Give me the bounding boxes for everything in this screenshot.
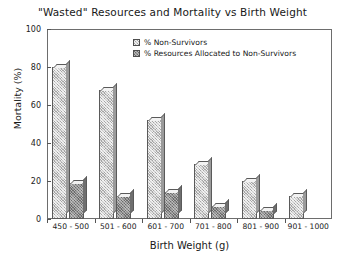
- y-axis-tick-mark: [47, 181, 51, 182]
- bar-0-2: [147, 120, 162, 219]
- bar-1-3: [211, 206, 226, 219]
- x-axis-tick-label: 601 - 700: [147, 222, 184, 231]
- x-axis-tick-label: 450 - 500: [52, 222, 89, 231]
- y-axis-tick-label: 20: [15, 177, 41, 186]
- legend-item: % Non-Survivors: [133, 37, 296, 48]
- light-hatched-swatch: [133, 39, 140, 46]
- bar-1-0: [69, 183, 84, 219]
- bar-0-3: [194, 164, 209, 219]
- dark-hatched-swatch: [133, 50, 140, 57]
- y-axis-tick-mark: [47, 143, 51, 144]
- x-axis-tick-mark: [142, 219, 143, 223]
- x-axis-title: Birth Weight (g): [47, 240, 332, 251]
- bar-side-face: [256, 174, 260, 214]
- bar-side-face: [178, 185, 182, 214]
- bar-1-1: [116, 196, 131, 219]
- y-axis-tick-mark: [47, 105, 51, 106]
- y-axis-title: Mortality (%): [12, 39, 23, 159]
- y-axis-tick-label: 100: [15, 25, 41, 34]
- legend-item: % Resources Allocated to Non-Survivors: [133, 48, 296, 59]
- x-axis-tick-label: 701 - 800: [195, 222, 232, 231]
- bar-0-4: [242, 181, 257, 219]
- x-axis-tick-mark: [285, 219, 286, 223]
- bar-0-0: [52, 67, 67, 219]
- x-axis-tick-mark: [237, 219, 238, 223]
- bar-1-2: [164, 192, 179, 219]
- chart-figure: "Wasted" Resources and Mortality vs Birt…: [0, 0, 345, 267]
- chart-legend: % Non-Survivors% Resources Allocated to …: [133, 37, 296, 59]
- y-axis-tick-mark: [47, 29, 51, 30]
- y-axis-tick-label: 0: [15, 215, 41, 224]
- bar-1-4: [259, 210, 274, 220]
- y-axis-tick-mark: [47, 67, 51, 68]
- legend-item-label: % Non-Survivors: [144, 39, 207, 47]
- x-axis-tick-mark: [95, 219, 96, 223]
- x-axis-tick-label: 801 - 900: [242, 222, 279, 231]
- bar-0-1: [99, 90, 114, 219]
- legend-item-label: % Resources Allocated to Non-Survivors: [144, 50, 296, 58]
- x-axis-tick-label: 501 - 600: [100, 222, 137, 231]
- bar-side-face: [83, 176, 87, 214]
- x-axis-tick-label: 901 - 1000: [288, 222, 329, 231]
- x-axis-tick-mark: [190, 219, 191, 223]
- x-axis-tick-mark: [47, 219, 48, 223]
- bar-0-5: [289, 196, 304, 219]
- bar-side-face: [113, 83, 117, 214]
